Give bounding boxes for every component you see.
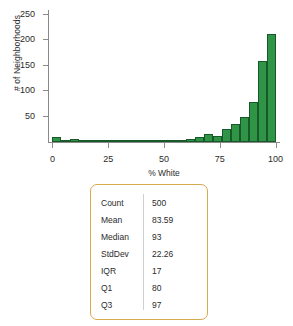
histogram-bar [249,102,258,142]
x-tick-label: 0 [50,155,55,164]
histogram-bar [151,140,160,142]
stat-label: StdDev [91,249,143,259]
histogram-bar [61,140,70,142]
table-column-divider [143,194,144,310]
stat-label: Count [91,198,143,208]
bar-series [48,10,280,142]
histogram-bar [70,139,79,142]
figure: # of Neighborhoods 50100150200250 025507… [0,0,293,326]
x-tick-label: 50 [159,155,169,164]
histogram-bar [240,117,249,142]
stat-value: 93 [143,232,207,242]
y-tick-label: 200 [20,35,35,44]
stat-label: Mean [91,215,143,225]
x-tick-label: 75 [215,155,225,164]
histogram-bar [186,139,195,142]
x-tick: 100 [276,142,277,148]
stat-value: 22.26 [143,249,207,259]
histogram-bar [88,140,97,142]
table-row: Mean83.59 [91,211,207,228]
histogram-bar [52,137,61,142]
stat-value: 500 [143,198,207,208]
y-tick-label: 150 [20,60,35,69]
histogram-bar [231,124,240,142]
table-row: Q397 [91,296,207,313]
histogram-bar [97,140,106,142]
stat-value: 97 [143,300,207,310]
y-tick: 200 [43,39,49,40]
stat-value: 83.59 [143,215,207,225]
x-tick-label: 25 [103,155,113,164]
histogram-bar [124,140,133,142]
plot-area: 50100150200250 0255075100 [48,10,280,143]
x-tick: 50 [164,142,165,148]
stat-value: 80 [143,283,207,293]
stat-label: Median [91,232,143,242]
stat-value: 17 [143,266,207,276]
table-row: StdDev22.26 [91,245,207,262]
histogram-chart: # of Neighborhoods 50100150200250 025507… [0,0,293,180]
histogram-bar [222,129,231,142]
x-tick: 25 [108,142,109,148]
y-tick-label: 100 [20,86,35,95]
y-tick-label: 250 [20,10,35,19]
y-tick: 50 [43,116,49,117]
histogram-bar [177,140,186,142]
histogram-bar [258,61,267,142]
summary-statistics-table: Count500Mean83.59Median93StdDev22.26IQR1… [90,184,208,320]
x-tick: 75 [220,142,221,148]
histogram-bar [168,140,177,142]
y-tick: 150 [43,65,49,66]
table-row: Median93 [91,228,207,245]
table-row: Count500 [91,194,207,211]
histogram-bar [142,140,151,142]
histogram-bar [115,140,124,142]
y-tick: 250 [43,14,49,15]
y-tick: 100 [43,90,49,91]
table-row: IQR17 [91,262,207,279]
x-tick-label: 100 [268,155,283,164]
histogram-bar [133,140,142,142]
stat-label: IQR [91,266,143,276]
x-tick: 0 [52,142,53,148]
y-tick-label: 50 [25,111,35,120]
x-axis-label: % White [48,168,280,178]
histogram-bar [195,137,204,142]
histogram-bar [79,140,88,142]
histogram-bar [267,34,276,142]
stat-label: Q1 [91,283,143,293]
stat-label: Q3 [91,300,143,310]
table-row: Q180 [91,279,207,296]
histogram-bar [204,134,213,142]
